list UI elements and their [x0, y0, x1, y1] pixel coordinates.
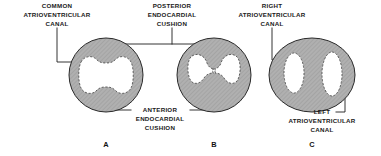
panel-letter-b: B — [211, 140, 216, 149]
diagram-canvas: COMMON ATRIOVENTRICULAR CANAL POSTERIOR … — [0, 0, 381, 156]
panel-letter-a: A — [103, 140, 109, 149]
panel-c-left-lumen — [284, 53, 304, 93]
label-left-av-canal: LEFT ATRIOVENTRICULAR CANAL — [288, 108, 355, 133]
panel-b-drawing — [177, 38, 251, 112]
label-right-av-canal: RIGHT ATRIOVENTRICULAR CANAL — [238, 2, 305, 27]
label-right-av-canal-line-3: CANAL — [261, 20, 284, 27]
label-common-av-canal-line-3: CANAL — [46, 20, 69, 27]
label-anterior-endocardial-cushion: ANTERIOR ENDOCARDIAL CUSHION — [136, 106, 184, 131]
endocardial-cushion-development-figure: COMMON ATRIOVENTRICULAR CANAL POSTERIOR … — [0, 0, 381, 156]
label-common-av-canal-line-2: ATRIOVENTRICULAR — [23, 11, 90, 18]
panel-c-drawing — [269, 38, 355, 112]
panel-c-right-lumen — [322, 52, 342, 96]
label-left-av-canal-line-3: CANAL — [311, 126, 334, 133]
label-anterior-cushion-line-2: ENDOCARDIAL — [136, 115, 184, 122]
label-common-av-canal-line-1: COMMON — [42, 2, 73, 9]
label-posterior-cushion-line-2: ENDOCARDIAL — [148, 11, 196, 18]
label-right-av-canal-line-2: ATRIOVENTRICULAR — [238, 11, 305, 18]
panel-b-central-isthmus — [213, 69, 215, 73]
label-anterior-cushion-line-3: CUSHION — [145, 124, 176, 131]
panel-a-drawing — [69, 38, 143, 112]
panel-letter-c: C — [309, 140, 315, 149]
label-left-av-canal-line-2: ATRIOVENTRICULAR — [288, 117, 355, 124]
label-anterior-cushion-line-1: ANTERIOR — [143, 106, 178, 113]
label-common-av-canal: COMMON ATRIOVENTRICULAR CANAL — [23, 2, 90, 27]
label-right-av-canal-line-1: RIGHT — [262, 2, 283, 9]
label-posterior-cushion-line-3: CUSHION — [157, 20, 188, 27]
panel-b-tissue-ring — [177, 38, 251, 112]
label-posterior-endocardial-cushion: POSTERIOR ENDOCARDIAL CUSHION — [148, 2, 196, 27]
label-posterior-cushion-line-1: POSTERIOR — [153, 2, 192, 9]
label-left-av-canal-line-1: LEFT — [314, 108, 330, 115]
